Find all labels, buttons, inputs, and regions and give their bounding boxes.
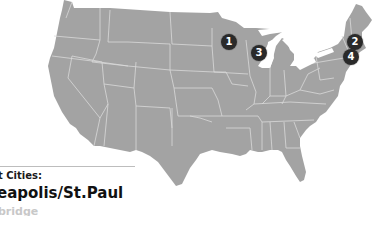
- legend-title: t Cities:: [0, 170, 42, 181]
- city-marker-2[interactable]: 2: [347, 34, 363, 50]
- city-marker-3[interactable]: 3: [251, 45, 267, 61]
- legend-city-next[interactable]: bridge: [0, 205, 38, 216]
- legend-city-1[interactable]: eapolis/St.Paul: [0, 184, 123, 202]
- city-marker-1[interactable]: 1: [221, 34, 237, 50]
- legend-divider: [0, 166, 135, 167]
- city-marker-4[interactable]: 4: [343, 49, 359, 65]
